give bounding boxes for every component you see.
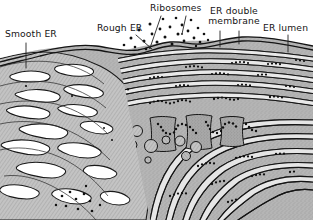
label-ribosomes: Ribosomes	[150, 3, 202, 13]
er-diagram-figure: Smooth ER Rough ER Ribosomes ER double m…	[0, 0, 313, 220]
label-er-double-membrane: ER double membrane	[206, 6, 262, 26]
label-er-lumen: ER lumen	[263, 23, 308, 33]
label-rough-er: Rough ER	[97, 23, 142, 33]
label-smooth-er: Smooth ER	[5, 29, 57, 39]
